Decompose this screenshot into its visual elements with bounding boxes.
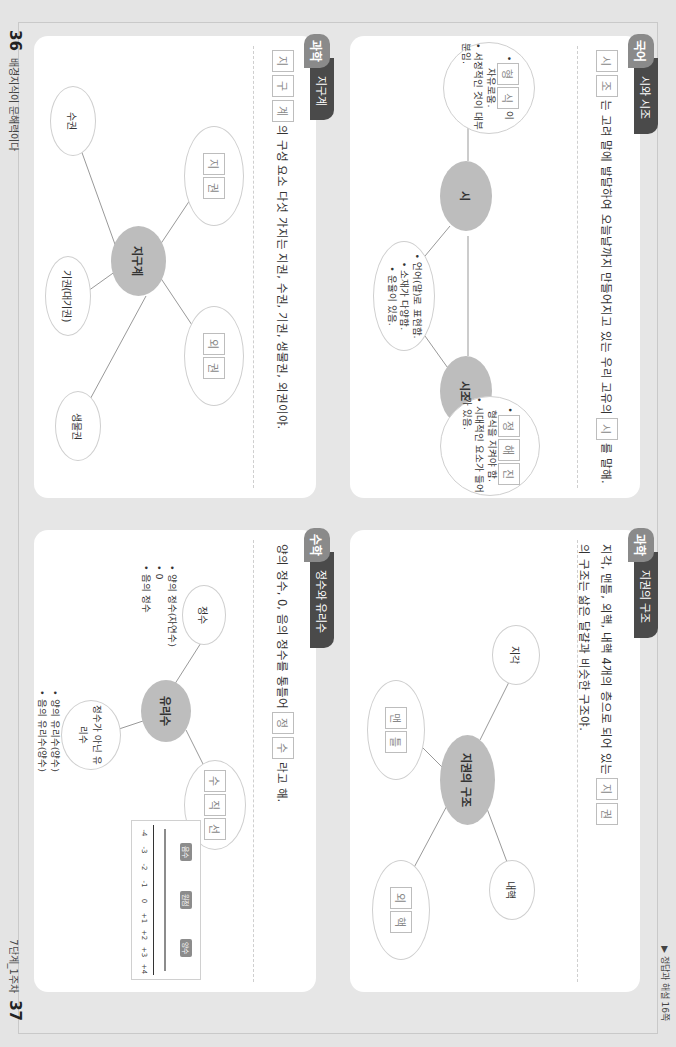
node-geosphere: 지 권: [184, 126, 244, 226]
answer-box[interactable]: 외: [203, 333, 225, 355]
node-outer-sphere: 외 권: [184, 306, 244, 406]
card-title: 정수와 유리수: [310, 552, 334, 648]
page-number-right: 37: [6, 1000, 24, 1021]
answer-reference: ▶ 정답과 해설 16쪽: [659, 946, 672, 1021]
answer-box[interactable]: 지: [596, 778, 618, 800]
answer-box[interactable]: 권: [203, 177, 225, 199]
answer-box[interactable]: 선: [204, 818, 226, 840]
hub-rational: 유리수: [141, 680, 191, 742]
page-number-left: 36: [6, 30, 24, 51]
footer-right: 7단계_1주차 37: [6, 939, 24, 1025]
answer-box[interactable]: 형: [497, 63, 519, 85]
answer-box[interactable]: 핵: [390, 911, 412, 933]
hub-poem: 시: [440, 161, 492, 231]
card-prompt: 지 구 계 의 구성 요소 다섯 가지는 지권, 수권, 기권, 생물권, 외권…: [272, 50, 294, 484]
non-integer-list: • 양의 유리수(양수) • 음의 유리수(양수): [35, 690, 61, 772]
prompt-text: 를 말해.: [599, 443, 615, 483]
card-prompt: 지각, 맨틀, 외핵, 내핵 4개의 층으로 되어 있는 지 권 의 구조는 삶…: [577, 544, 618, 978]
card-prompt: 양의 정수, 0, 음의 정수를 통틀어 정 수 라고 해.: [272, 544, 294, 978]
node-mantle: 맨 틀: [367, 680, 425, 780]
footer-left: 36 배경지식이 문해력이다: [6, 30, 24, 151]
answer-box[interactable]: 시: [596, 418, 618, 440]
node-crust: 지각: [492, 625, 540, 685]
number-line-figure: 음수 원점 양수 -4 -3 -2 -1 0 +1 +2 +3 +4: [131, 820, 201, 980]
answer-box[interactable]: 지: [272, 50, 294, 72]
node-integer: 정수: [182, 585, 226, 645]
prompt-text: 라고 해.: [275, 762, 291, 802]
divider: [577, 46, 578, 488]
answer-box[interactable]: 조: [596, 75, 618, 97]
divider: [253, 46, 254, 488]
card-integers-rationals: 수학 정수와 유리수 양의 정수, 0, 음의 정수를 통틀어 정 수 라고 해…: [34, 530, 316, 992]
subject-tab: 과학: [304, 34, 330, 68]
prompt-text: 의 구성 요소 다섯 가지는 지권, 수권, 기권, 생물권, 외권이야.: [275, 125, 291, 429]
prompt-text: 의 구조는 삶은 달걀과 비슷한 구조야.: [577, 544, 593, 731]
book-title: 배경지식이 문해력이다: [8, 58, 19, 151]
card-geosphere-structure: 과학 지권의 구조 지각, 맨틀, 외핵, 내핵 4개의 층으로 되어 있는 지…: [350, 530, 640, 992]
answer-box[interactable]: 권: [596, 803, 618, 825]
answer-box[interactable]: 수: [272, 737, 294, 759]
answer-box[interactable]: 구: [272, 75, 294, 97]
answer-box[interactable]: 정: [498, 415, 520, 437]
node-inner-core: 내핵: [489, 860, 535, 920]
workbook-spread: ▶ 정답과 해설 16쪽 국어 시와 시조 시 조 는 고려 말에 발달하여 오…: [0, 0, 676, 1047]
node-hydrosphere: 수권: [50, 86, 96, 156]
card-poetry: 국어 시와 시조 시 조 는 고려 말에 발달하여 오늘날까지 만들어지고 있는…: [350, 36, 640, 498]
answer-box[interactable]: 해: [498, 439, 520, 461]
prompt-text: 는 고려 말에 발달하여 오늘날까지 만들어지고 있는 우리 고유의: [599, 100, 615, 415]
divider: [253, 540, 254, 982]
answer-box[interactable]: 맨: [385, 707, 407, 729]
card-prompt: 시 조 는 고려 말에 발달하여 오늘날까지 만들어지고 있는 우리 고유의 시…: [596, 50, 618, 484]
node-atmosphere: 기권(대기권): [45, 256, 91, 336]
card-title: 지권의 구조: [634, 552, 658, 638]
answer-box[interactable]: 틀: [385, 731, 407, 753]
axis-line: [153, 825, 154, 975]
prompt-text: 지각, 맨틀, 외핵, 내핵 4개의 층으로 되어 있는: [599, 544, 615, 775]
answer-box[interactable]: 외: [390, 887, 412, 909]
answer-box[interactable]: 진: [498, 463, 520, 485]
subject-tab: 수학: [304, 528, 330, 562]
prompt-text: 양의 정수, 0, 음의 정수를 통틀어: [275, 544, 291, 709]
card-title: 시와 시조: [634, 58, 658, 134]
node-sijo-features: • 정 해 진 형식을 지켜야 함. • 시대적인 요소가 들어가 있음.: [440, 396, 540, 496]
answer-box[interactable]: 수: [204, 770, 226, 792]
sign-range-bar: [164, 829, 166, 971]
node-non-integer: 정수가 아닌 유리수: [61, 700, 121, 770]
node-poem-features: • 형 식 이 자유로움. • 서정적인 것이 대부분임.: [443, 42, 535, 134]
divider: [577, 540, 578, 982]
node-biosphere: 생물권: [55, 391, 101, 461]
answer-box[interactable]: 직: [204, 794, 226, 816]
answer-box[interactable]: 권: [203, 357, 225, 379]
answer-box[interactable]: 지: [203, 153, 225, 175]
answer-box[interactable]: 정: [272, 712, 294, 734]
subject-tab: 과학: [628, 528, 654, 562]
hub-earth-system: 지구계: [111, 226, 166, 296]
node-outer-core: 외 핵: [372, 860, 430, 960]
answer-box[interactable]: 계: [272, 100, 294, 122]
card-earth-system: 과학 지구계 지 구 계 의 구성 요소 다섯 가지는 지권, 수권, 기권, …: [34, 36, 316, 498]
answer-box[interactable]: 시: [596, 50, 618, 72]
integer-list: • 양의 정수(자연수) • 0 • 음의 정수: [140, 565, 178, 647]
subject-tab: 국어: [628, 34, 654, 68]
unit-label: 7단계_1주차: [8, 939, 19, 993]
node-shared-features: • 언어(말)로 표현함. • 소재가 다양함. • 운율이 있음.: [373, 241, 435, 351]
answer-box[interactable]: 식: [497, 87, 519, 109]
hub-geosphere-structure: 지권의 구조: [440, 735, 495, 825]
